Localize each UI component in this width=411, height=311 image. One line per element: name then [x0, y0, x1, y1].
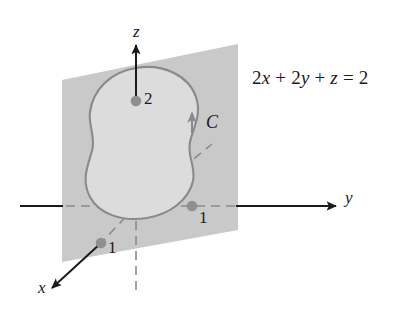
equation-operator-1: + [270, 67, 291, 88]
equation-variable-y: y [301, 67, 310, 88]
equation-coefficient-y: 2 [291, 67, 301, 88]
equation-coefficient-x: 2 [252, 67, 262, 88]
z-axis-label: z [133, 22, 140, 42]
x-axis-label: x [38, 278, 46, 298]
stokes-theorem-figure [0, 0, 411, 311]
equation-operator-2: + [310, 67, 331, 88]
y-axis-label: y [345, 188, 353, 208]
plane-equation-label: 2x + 2y + z = 2 [252, 67, 368, 89]
curve-c-label: C [206, 112, 218, 133]
curve-region-fill [86, 67, 198, 219]
z-intercept-dot [131, 96, 142, 107]
equation-variable-z: z [330, 67, 338, 88]
y-intercept-label: 1 [199, 208, 208, 228]
z-intercept-label: 2 [144, 89, 153, 109]
x-intercept-dot [96, 238, 107, 249]
y-intercept-dot [187, 201, 198, 212]
x-intercept-label: 1 [108, 238, 117, 258]
equation-right-side: = 2 [338, 67, 369, 88]
